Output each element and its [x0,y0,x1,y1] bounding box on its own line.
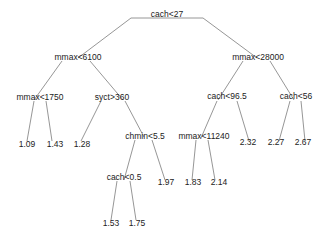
edge-rll-right [208,140,215,180]
edge-ll-right [46,101,52,141]
node-chmin-5.5: chmin<5.5 [125,132,164,141]
node-mmax-1750: mmax<1750 [16,93,63,102]
edge-ll-left [27,101,34,141]
edge-lrr-right [152,140,165,180]
leaf-1.97: 1.97 [158,178,175,187]
leaf-2.27: 2.27 [268,138,285,147]
node-cach-0.5: cach<0.5 [107,173,142,182]
node-syct-360: syct>360 [95,93,129,102]
leaf-2.32: 2.32 [240,138,257,147]
leaf-1.53: 1.53 [103,219,120,228]
leaf-1.09: 1.09 [19,140,36,149]
leaf-2.14: 2.14 [211,178,228,187]
leaf-1.83: 1.83 [185,178,202,187]
leaf-1.43: 1.43 [47,140,64,149]
node-cach-56: cach<56 [280,92,312,101]
node-mmax-28000: mmax<28000 [232,53,284,62]
edge-rl-right [237,101,249,141]
node-root: cach<27 [151,10,183,19]
leaf-1.75: 1.75 [129,219,146,228]
edge-rr-left [279,101,290,141]
leaf-2.67: 2.67 [295,138,312,147]
leaf-1.28: 1.28 [74,140,91,149]
edge-rr-right [301,101,305,141]
tree-edges [0,0,327,240]
edge-lr-left [81,101,101,141]
node-mmax-6100: mmax<6100 [54,53,101,62]
node-cach-96.5: cach<96.5 [207,92,246,101]
edge-lrrl-left [111,181,117,220]
node-mmax-11240: mmax<11240 [178,132,229,141]
edge-lrrl-right [130,181,136,220]
edge-rll-left [192,140,196,180]
